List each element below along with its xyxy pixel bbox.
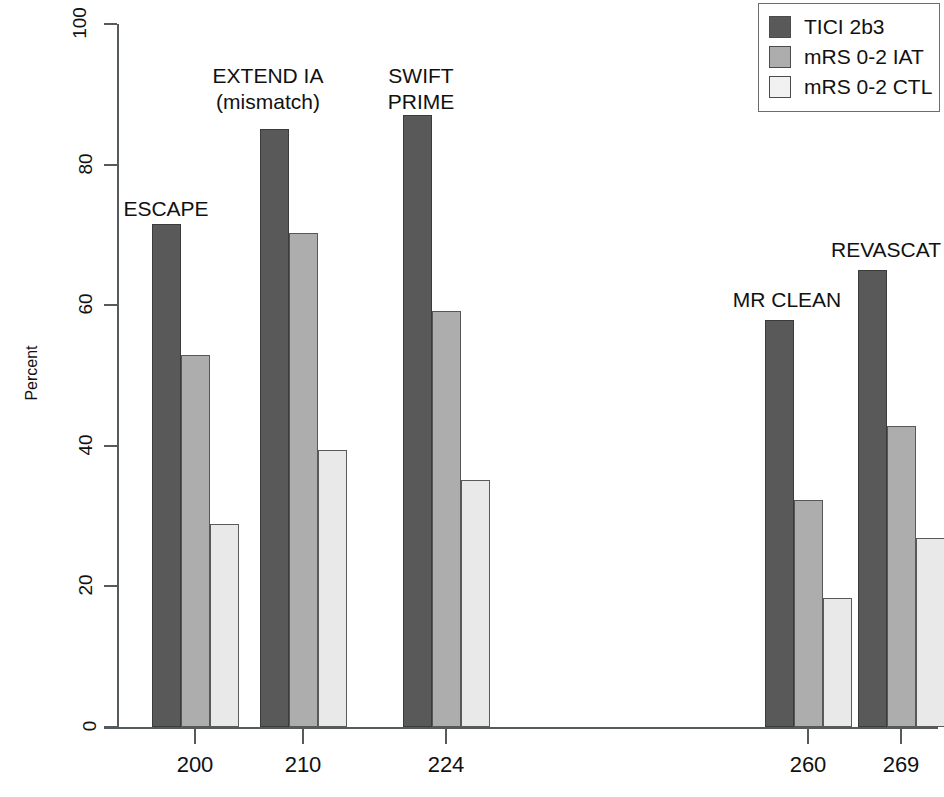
legend-item-1: mRS 0-2 IAT xyxy=(769,42,929,72)
x-tick-260 xyxy=(807,729,809,744)
y-tick-40 xyxy=(104,445,117,447)
bar-200-mrs-0-2-ctl xyxy=(210,524,239,727)
x-tick-label-200: 200 xyxy=(177,752,214,778)
legend-label: mRS 0-2 CTL xyxy=(804,75,932,99)
y-tick-label-text: 40 xyxy=(74,434,96,455)
bar-260-mrs-0-2-iat xyxy=(794,500,823,727)
bar-269-tici-2b3 xyxy=(858,270,887,727)
bar-210-tici-2b3 xyxy=(260,129,289,727)
x-tick-224 xyxy=(445,729,447,744)
legend-label: TICI 2b3 xyxy=(804,15,885,39)
x-tick-label-269: 269 xyxy=(883,752,920,778)
legend-item-2: mRS 0-2 CTL xyxy=(769,72,929,102)
legend-label: mRS 0-2 IAT xyxy=(804,45,924,69)
y-tick-label-text: 0 xyxy=(80,721,102,732)
bar-200-mrs-0-2-iat xyxy=(181,355,210,727)
y-tick-80 xyxy=(104,164,117,166)
y-axis-line xyxy=(117,24,119,728)
bar-260-mrs-0-2-ctl xyxy=(823,598,852,727)
chart-root: 020406080100 200210224260269 Percent ESC… xyxy=(0,0,944,797)
y-tick-100 xyxy=(104,23,117,25)
bar-269-mrs-0-2-ctl xyxy=(916,538,944,727)
bar-210-mrs-0-2-iat xyxy=(289,233,318,727)
y-tick-label-60: 60 xyxy=(0,293,96,315)
y-tick-label-text: 100 xyxy=(69,7,91,39)
y-tick-20 xyxy=(104,585,117,587)
group-label-escape: ESCAPE xyxy=(123,196,208,222)
bar-224-tici-2b3 xyxy=(403,115,432,727)
y-tick-label-80: 80 xyxy=(0,153,96,175)
bar-224-mrs-0-2-iat xyxy=(432,311,461,727)
group-label-swift: SWIFT PRIME xyxy=(388,63,455,115)
plot-area: 020406080100 200210224260269 Percent ESC… xyxy=(0,0,944,797)
y-tick-label-text: 60 xyxy=(74,294,96,315)
legend: TICI 2b3mRS 0-2 IATmRS 0-2 CTL xyxy=(758,3,940,112)
y-tick-label-40: 40 xyxy=(0,434,96,456)
y-tick-label-100: 100 xyxy=(0,12,96,34)
x-tick-210 xyxy=(302,729,304,744)
legend-swatch-icon-1 xyxy=(769,46,791,68)
bar-269-mrs-0-2-iat xyxy=(887,426,916,727)
x-tick-label-224: 224 xyxy=(428,752,465,778)
y-tick-0 xyxy=(104,726,117,728)
x-axis-line xyxy=(104,727,938,729)
y-tick-label-text: 80 xyxy=(74,153,96,174)
bar-224-mrs-0-2-ctl xyxy=(461,480,490,727)
x-tick-label-210: 210 xyxy=(285,752,322,778)
group-label-mr-clean: MR CLEAN xyxy=(733,287,842,313)
y-axis-title-text: Percent xyxy=(23,345,41,400)
legend-swatch-icon-2 xyxy=(769,76,791,98)
y-tick-label-20: 20 xyxy=(0,574,96,596)
bar-210-mrs-0-2-ctl xyxy=(318,450,347,727)
x-tick-200 xyxy=(194,729,196,744)
group-label-revascat: REVASCAT xyxy=(831,237,941,263)
legend-swatch-icon-0 xyxy=(769,16,791,38)
y-tick-60 xyxy=(104,304,117,306)
y-axis-title: Percent xyxy=(0,364,82,382)
y-tick-label-text: 20 xyxy=(74,575,96,596)
x-tick-label-260: 260 xyxy=(790,752,827,778)
legend-item-0: TICI 2b3 xyxy=(769,12,929,42)
group-label-extend-ia: EXTEND IA (mismatch) xyxy=(213,63,324,115)
y-tick-label-0: 0 xyxy=(0,715,96,737)
bar-200-tici-2b3 xyxy=(152,224,181,727)
x-tick-269 xyxy=(900,729,902,744)
bar-260-tici-2b3 xyxy=(765,320,794,727)
